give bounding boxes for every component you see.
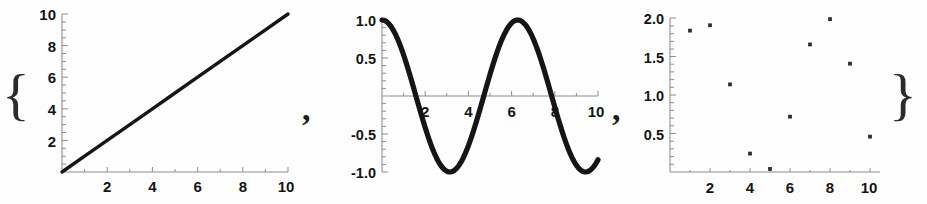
scatter-point [708, 23, 712, 27]
scatter-point [808, 43, 812, 47]
x-tick-label: 8 [239, 178, 247, 195]
y-tick-label: 1.5 [644, 50, 664, 66]
x-axis-ticks [85, 167, 288, 172]
chart-panel-linear: 2 4 6 8 10 2 4 6 8 10 [22, 0, 294, 204]
scatter-plot-svg: 0.5 1.0 1.5 2.0 2 4 6 8 10 [622, 0, 884, 204]
x-tick-label: 6 [507, 103, 515, 120]
linear-plot-svg: 2 4 6 8 10 2 4 6 8 10 [22, 0, 294, 204]
data-series-scatter [688, 17, 872, 171]
y-tick-label: 4 [48, 101, 57, 118]
y-tick-label: 6 [48, 69, 56, 86]
scatter-point [868, 135, 872, 139]
scatter-point [768, 167, 772, 171]
x-tick-label: 10 [278, 178, 294, 195]
plot-list-expression: { [0, 0, 927, 204]
x-tick-label: 2 [103, 178, 111, 195]
y-tick-label: 2 [48, 133, 56, 150]
x-axis-ticks [690, 168, 870, 172]
scatter-point [688, 29, 692, 33]
scatter-point [748, 152, 752, 156]
y-tick-label: -0.5 [351, 127, 376, 143]
scatter-point [828, 17, 832, 21]
y-tick-label: -1.0 [351, 165, 376, 181]
scatter-point [788, 115, 792, 119]
scatter-point [728, 83, 732, 87]
x-axis-ticks [404, 91, 598, 96]
y-tick-label: 2.0 [644, 11, 664, 27]
x-tick-label: 6 [786, 179, 794, 196]
y-tick-label: 8 [48, 38, 56, 55]
list-separator-comma: , [302, 92, 311, 126]
y-tick-label: 1.0 [356, 13, 376, 29]
x-tick-label: 6 [193, 178, 201, 195]
close-curly-brace: } [889, 66, 917, 124]
x-tick-label: 10 [861, 179, 878, 196]
y-tick-label: 10 [39, 6, 56, 23]
scatter-point [848, 62, 852, 66]
x-tick-label: 4 [746, 179, 755, 196]
cosine-plot-svg: -1.0 -0.5 0.5 1.0 2 4 6 8 10 [328, 0, 604, 204]
x-tick-label: 10 [588, 103, 604, 120]
x-tick-label: 4 [148, 178, 157, 195]
y-tick-label: 0.5 [644, 127, 664, 143]
list-separator-comma: , [612, 92, 621, 126]
y-tick-label: 1.0 [644, 88, 664, 104]
chart-panel-cosine: -1.0 -0.5 0.5 1.0 2 4 6 8 10 [328, 0, 604, 204]
y-axis-ticks [670, 18, 676, 164]
chart-panel-scatter: 0.5 1.0 1.5 2.0 2 4 6 8 10 [622, 0, 884, 204]
y-axis-ticks [62, 14, 68, 164]
x-tick-label: 2 [706, 179, 714, 196]
x-tick-label: 8 [826, 179, 834, 196]
y-tick-label: 0.5 [356, 51, 376, 67]
x-tick-label: 4 [464, 103, 473, 120]
data-series-line [62, 14, 288, 172]
